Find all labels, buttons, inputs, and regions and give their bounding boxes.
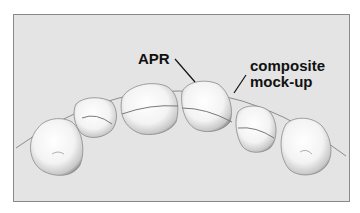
apr-label: APR — [138, 51, 170, 67]
composite-label-line1: composite — [250, 58, 325, 74]
apr-leader-line — [175, 59, 195, 82]
tooth-right-lateral-incisor — [74, 98, 117, 138]
tooth-left-lateral-incisor — [236, 106, 276, 152]
tooth-right-canine — [31, 119, 83, 176]
tooth-right-central-incisor — [121, 84, 178, 135]
composite-mockup-label: composite mock-up — [250, 58, 325, 90]
tooth-left-canine — [281, 118, 331, 175]
tooth-left-central-incisor-apr — [182, 81, 232, 131]
composite-label-line2: mock-up — [250, 74, 325, 90]
composite-leader-line — [234, 75, 246, 93]
dental-arch-illustration — [0, 0, 360, 213]
